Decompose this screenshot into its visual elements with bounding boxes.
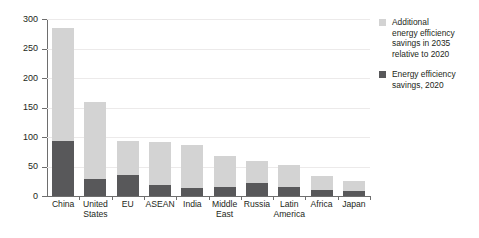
y-tick-label: 300 [0, 15, 38, 24]
bar-stack [214, 156, 236, 196]
y-axis-title: Mtoe [0, 3, 35, 47]
bar-segment-savings-2020 [117, 175, 139, 196]
bar-segment-savings-2020 [214, 187, 236, 196]
bar-stack [117, 141, 139, 196]
bar-stack [343, 181, 365, 196]
bar-segment-savings-2020 [246, 183, 268, 196]
bar-segment-savings-2020 [278, 187, 300, 196]
legend-item[interactable]: Additionalenergy efficiencysavings in 20… [379, 17, 479, 59]
x-axis-category-label: Japan [334, 200, 374, 210]
y-tick-label: 150 [0, 103, 38, 112]
legend-item-label: Additionalenergy efficiencysavings in 20… [392, 17, 479, 59]
legend-item-label-line: relative to 2020 [392, 49, 479, 60]
bar-segment-additional-2035 [343, 181, 365, 191]
gridline [47, 19, 370, 20]
y-tick-label: 250 [0, 44, 38, 53]
x-axis-category-label-line: States [75, 210, 115, 220]
legend-item-label: Energy efficiencysavings, 2020 [392, 69, 479, 90]
legend-swatch-icon [379, 19, 386, 26]
bar-stack [84, 102, 106, 196]
bar-segment-additional-2035 [246, 161, 268, 183]
bar-segment-additional-2035 [311, 176, 333, 190]
bar-segment-additional-2035 [117, 141, 139, 175]
bar-segment-additional-2035 [84, 102, 106, 179]
bar-segment-additional-2035 [149, 142, 171, 184]
bar-segment-savings-2020 [149, 185, 171, 196]
y-tick-label: 0 [0, 192, 38, 201]
bar-segment-additional-2035 [181, 145, 203, 188]
legend-item-label-line: savings in 2035 [392, 38, 479, 49]
x-axis-category-label-line: Japan [334, 200, 374, 210]
bar-stack [246, 161, 268, 196]
bar-segment-savings-2020 [84, 179, 106, 196]
y-tick-label: 50 [0, 162, 38, 171]
legend-item[interactable]: Energy efficiencysavings, 2020 [379, 69, 479, 90]
y-tick-label: 100 [0, 133, 38, 142]
x-axis-category-label-line: East [205, 210, 245, 220]
legend-item-label-line: Additional [392, 17, 479, 28]
gridline [47, 78, 370, 79]
bar-stack [278, 165, 300, 196]
bar-segment-additional-2035 [278, 165, 300, 187]
bar-segment-additional-2035 [52, 28, 74, 141]
chart-figure: Mtoe 050100150200250300 ChinaUnitedState… [0, 0, 479, 238]
legend-item-label-line: energy efficiency [392, 28, 479, 39]
bar-stack [52, 28, 74, 196]
legend-item-label-line: savings, 2020 [392, 80, 479, 91]
bar-segment-additional-2035 [214, 156, 236, 187]
bar-segment-savings-2020 [343, 191, 365, 196]
gridline [47, 49, 370, 50]
chart-legend: Additionalenergy efficiencysavings in 20… [379, 17, 479, 101]
legend-item-label-line: Energy efficiency [392, 69, 479, 80]
bar-segment-savings-2020 [311, 190, 333, 196]
legend-swatch-icon [379, 71, 386, 78]
bar-segment-savings-2020 [52, 141, 74, 196]
bar-stack [311, 176, 333, 196]
bar-stack [149, 142, 171, 196]
x-axis-category-label-line: America [269, 210, 309, 220]
y-tick-label: 200 [0, 74, 38, 83]
bar-stack [181, 145, 203, 196]
bar-segment-savings-2020 [181, 188, 203, 196]
plot-area [47, 19, 370, 196]
